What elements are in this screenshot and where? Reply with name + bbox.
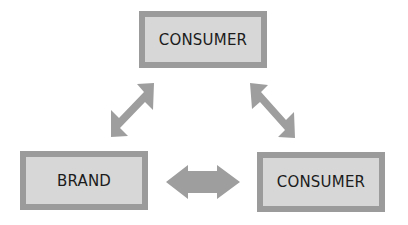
arrows-layer [0,0,408,225]
double-arrow-icon-brand-consumer [111,83,154,137]
double-arrow-icon-consumer-consumer [250,83,295,138]
double-arrow-icon-brand-right-consumer [166,165,240,199]
